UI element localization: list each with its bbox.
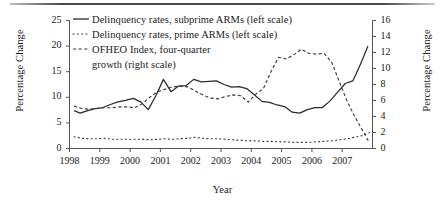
y-axis-right-tick-6: 6 xyxy=(381,94,401,105)
x-axis-tick-2006: 2006 xyxy=(302,155,322,166)
x-axis-tick-2002: 2002 xyxy=(181,155,201,166)
legend-item-prime-arms: Delinquency rates, prime ARMs (left scal… xyxy=(92,29,277,40)
y-axis-right-tick-4: 4 xyxy=(381,110,401,121)
y-axis-right-tick-8: 8 xyxy=(381,78,401,89)
y-axis-right-tick-14: 14 xyxy=(381,30,401,41)
y-axis-right-tick-16: 16 xyxy=(381,14,401,25)
x-axis-tick-1999: 1999 xyxy=(90,155,110,166)
y-axis-left-tick-25: 25 xyxy=(28,14,62,25)
x-axis-title: Year xyxy=(0,184,445,195)
y-axis-right-tick-12: 12 xyxy=(381,46,401,57)
y-axis-right-title: Percentage Change xyxy=(421,23,432,119)
series-line-1 xyxy=(74,133,369,143)
y-axis-right-tick-10: 10 xyxy=(381,62,401,73)
legend-item-ofheo-index-line2: growth (right scale) xyxy=(92,59,176,70)
x-axis-tick-2001: 2001 xyxy=(150,155,170,166)
legend-item-ofheo-index: OFHEO Index, four-quarter xyxy=(92,44,211,55)
y-axis-left-tick-0: 0 xyxy=(28,142,62,153)
y-axis-right-tick-0: 0 xyxy=(381,142,401,153)
x-axis-tick-2004: 2004 xyxy=(241,155,261,166)
legend-line-samples xyxy=(73,19,89,49)
tick-marks xyxy=(66,21,376,153)
figure: 0510152025 0246810121416 199819992000200… xyxy=(0,0,445,211)
x-axis-tick-2007: 2007 xyxy=(332,155,352,166)
legend-item-subprime-arms: Delinquency rates, subprime ARMs (left s… xyxy=(92,14,292,25)
x-axis-tick-1998: 1998 xyxy=(60,155,80,166)
y-axis-right-tick-2: 2 xyxy=(381,126,401,137)
y-axis-left-tick-15: 15 xyxy=(28,65,62,76)
series-line-0 xyxy=(74,46,368,113)
y-axis-left-tick-10: 10 xyxy=(28,90,62,101)
y-axis-left-tick-20: 20 xyxy=(28,39,62,50)
x-axis-tick-2000: 2000 xyxy=(120,155,140,166)
y-axis-left-title: Percentage Change xyxy=(14,23,25,119)
y-axis-left-tick-5: 5 xyxy=(28,116,62,127)
x-axis-tick-2005: 2005 xyxy=(272,155,292,166)
x-axis-tick-2003: 2003 xyxy=(211,155,231,166)
